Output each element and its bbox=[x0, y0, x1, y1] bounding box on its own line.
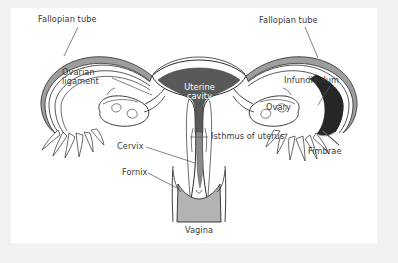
label-isthmus-of-uterus: Isthmus of uterus bbox=[211, 132, 284, 142]
label-fallopian-tube-left: Fallopian tube bbox=[38, 15, 97, 25]
endometrium-outline-left bbox=[186, 99, 190, 196]
label-fornix: Fornix bbox=[122, 168, 147, 178]
ovary-left-body bbox=[99, 96, 149, 126]
leader-fallopian-tube-right bbox=[305, 27, 318, 58]
fimbrae-left-group bbox=[42, 129, 104, 158]
uterus-group bbox=[152, 57, 246, 200]
endometrium-outline-right bbox=[208, 99, 212, 196]
ovary-left-hilum-stalk bbox=[107, 88, 115, 95]
isthmus-constriction-left bbox=[191, 128, 193, 152]
fimbria-left-5 bbox=[84, 132, 93, 152]
leader-fallopian-tube-left bbox=[64, 27, 78, 56]
diagram-root: Fallopian tube Fallopian tube Ovarian li… bbox=[0, 0, 398, 263]
vagina-wall-right bbox=[225, 166, 226, 222]
fimbria-right-3 bbox=[296, 136, 305, 161]
label-uterine-cavity-line2: cavity bbox=[175, 92, 224, 102]
fimbria-left-4 bbox=[76, 133, 83, 157]
label-ovary: Ovary bbox=[266, 103, 291, 113]
uterine-cavity-region bbox=[158, 68, 240, 140]
fimbria-right-4 bbox=[289, 136, 295, 160]
label-fimbrae: Fimbrae bbox=[308, 147, 342, 157]
ovary-left-group bbox=[99, 88, 149, 126]
reproductive-system-illustration bbox=[0, 0, 398, 263]
label-cervix: Cervix bbox=[117, 142, 144, 152]
label-vagina: Vagina bbox=[176, 226, 222, 236]
ovary-right-hilum-stalk bbox=[283, 88, 291, 95]
leader-cervix bbox=[146, 147, 195, 163]
isthmus-constriction-right bbox=[205, 128, 207, 152]
label-fallopian-tube-right: Fallopian tube bbox=[259, 16, 318, 26]
label-infundibulum: Infundibulum bbox=[284, 76, 339, 86]
vagina-wall-left bbox=[172, 166, 173, 222]
fimbria-left-6 bbox=[91, 129, 104, 145]
label-ovarian-ligament-line2: ligament bbox=[62, 77, 99, 87]
